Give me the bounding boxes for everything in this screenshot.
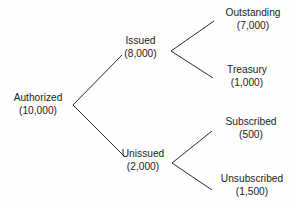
node-treasury-value: (1,000) [218,77,276,90]
node-unissued-label: Unissued [116,148,170,161]
node-subscribed: Subscribed (500) [218,116,284,141]
edge-unissued-subscribed [172,131,212,163]
node-issued-value: (8,000) [118,48,163,61]
edge-unissued-unsubscribed [172,163,212,190]
node-outstanding-label: Outstanding [218,7,288,20]
node-authorized-value: (10,000) [7,105,69,118]
node-unsubscribed-value: (1,500) [213,186,291,199]
node-outstanding-value: (7,000) [218,20,288,33]
node-issued-label: Issued [118,35,163,48]
node-treasury: Treasury (1,000) [218,64,276,89]
tree-diagram: Authorized (10,000) Issued (8,000) Uniss… [0,0,293,208]
node-treasury-label: Treasury [218,64,276,77]
node-unsubscribed: Unsubscribed (1,500) [213,173,291,198]
node-unsubscribed-label: Unsubscribed [213,173,291,186]
node-authorized: Authorized (10,000) [7,92,69,117]
node-unissued-value: (2,000) [116,161,170,174]
node-issued: Issued (8,000) [118,35,163,60]
edge-authorized-issued [73,55,122,105]
edge-issued-outstanding [171,21,214,51]
edge-issued-treasury [171,51,213,78]
node-subscribed-value: (500) [218,129,284,142]
node-subscribed-label: Subscribed [218,116,284,129]
node-unissued: Unissued (2,000) [116,148,170,173]
node-authorized-label: Authorized [7,92,69,105]
node-outstanding: Outstanding (7,000) [218,7,288,32]
